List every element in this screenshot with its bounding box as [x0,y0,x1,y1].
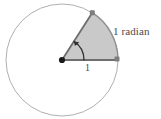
endpoint-marker-horizontal [115,57,120,62]
shaded-sector [62,13,118,60]
radius-label: 1 [85,63,90,73]
endpoint-marker-angled [90,10,95,15]
center-point [59,57,65,63]
radian-figure: 1 radian 1 [0,0,161,119]
angle-label: 1 radian [113,26,150,37]
figure-canvas [0,0,161,119]
